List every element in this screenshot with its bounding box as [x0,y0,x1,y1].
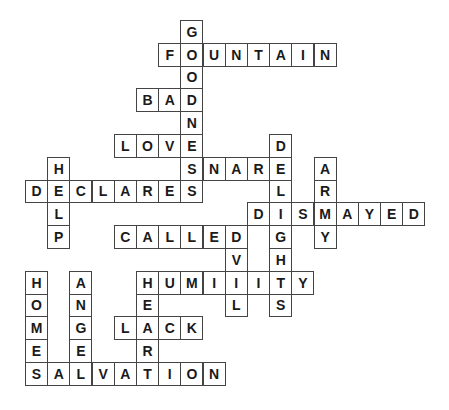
crossword-cell: V [225,248,248,272]
crossword-cell: R [247,157,270,181]
crossword-cell: S [180,157,203,181]
crossword-cell: F [158,43,181,67]
crossword-cell: D [25,180,48,204]
crossword-cell: R [136,339,159,363]
crossword-cell: E [25,339,48,363]
crossword-cell: S [180,180,203,204]
crossword-cell: N [69,294,92,318]
crossword-cell: I [291,43,314,67]
crossword-cell: Y [314,225,337,249]
crossword-cell: C [158,316,181,340]
crossword-cell: N [203,362,226,386]
crossword-cell: T [247,43,270,67]
crossword-cell: L [92,180,115,204]
crossword-cell: H [25,271,48,295]
crossword-cell: E [380,202,403,226]
crossword-cell: I [158,362,181,386]
crossword-cell: O [180,43,203,67]
crossword-cell: U [203,43,226,67]
crossword-cell: I [203,271,226,295]
crossword-cell: M [25,316,48,340]
crossword-cell: G [269,225,292,249]
crossword-cell: D [269,134,292,158]
crossword-cell: H [47,157,70,181]
crossword-cell: I [247,271,270,295]
crossword-cell: A [158,88,181,112]
crossword-cell: A [336,202,359,226]
crossword-cell: I [225,271,248,295]
crossword-cell: A [225,157,248,181]
crossword-cell: S [25,362,48,386]
crossword-cell: T [269,271,292,295]
crossword-cell: N [314,43,337,67]
crossword-cell: D [225,225,248,249]
crossword-cell: A [314,157,337,181]
crossword-cell: V [158,134,181,158]
crossword-cell: L [158,225,181,249]
crossword-cell: E [180,134,203,158]
crossword-cell: L [269,180,292,204]
crossword-cell: A [114,180,137,204]
crossword-cell: M [180,271,203,295]
crossword-cell: G [180,20,203,44]
crossword-cell: G [69,316,92,340]
crossword-cell: R [136,180,159,204]
crossword-cell: I [269,202,292,226]
crossword-cell: E [47,180,70,204]
crossword-cell: C [114,225,137,249]
crossword-cell: P [47,225,70,249]
crossword-cell: S [269,294,292,318]
crossword-cell: L [47,202,70,226]
crossword-cell: T [136,362,159,386]
crossword-cell: A [269,43,292,67]
crossword-cell: H [269,248,292,272]
crossword-cell: S [291,202,314,226]
crossword-cell: M [314,202,337,226]
crossword-cell: N [225,43,248,67]
crossword-cell: L [114,316,137,340]
crossword-cell: O [25,294,48,318]
crossword-cell: D [247,202,270,226]
crossword-cell: Y [291,271,314,295]
crossword-cell: A [136,225,159,249]
crossword-cell: L [225,294,248,318]
crossword-cell: E [269,157,292,181]
crossword-cell: C [69,180,92,204]
crossword-cell: N [203,157,226,181]
crossword-cell: N [180,111,203,135]
crossword-cell: D [402,202,425,226]
crossword-cell: K [180,316,203,340]
crossword-cell: L [114,134,137,158]
crossword-cell: H [136,271,159,295]
crossword-cell: D [180,88,203,112]
crossword-cell: A [114,362,137,386]
crossword-cell: E [136,294,159,318]
crossword-cell: R [314,180,337,204]
crossword-cell: U [158,271,181,295]
crossword-cell: Y [358,202,381,226]
crossword-cell: L [69,362,92,386]
crossword-cell: E [158,180,181,204]
crossword-grid: GOODNESSFUNTAINBALOVNAREDLIGHTSARMYHELPD… [0,0,449,410]
crossword-cell: O [180,66,203,90]
crossword-cell: V [92,362,115,386]
crossword-cell: A [47,362,70,386]
crossword-cell: O [180,362,203,386]
crossword-cell: O [136,134,159,158]
crossword-cell: A [69,271,92,295]
crossword-cell: E [69,339,92,363]
crossword-cell: A [136,316,159,340]
crossword-cell: L [180,225,203,249]
crossword-cell: B [136,88,159,112]
crossword-cell: E [203,225,226,249]
